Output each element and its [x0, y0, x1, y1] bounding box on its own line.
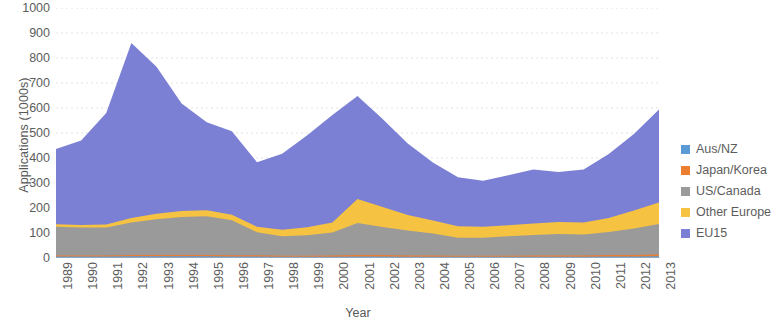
legend-swatch-icon: [681, 187, 690, 196]
x-axis-tick-label: 2010: [590, 262, 603, 308]
legend-swatch-icon: [681, 145, 690, 154]
x-axis-tick-label: 2009: [565, 262, 578, 308]
legend-item-label: EU15: [696, 227, 727, 240]
y-axis-tick-label: 800: [4, 52, 50, 65]
chart-legend: Aus/NZJapan/KoreaUS/CanadaOther EuropeEU…: [681, 139, 782, 244]
x-axis-tick-label: 2013: [665, 262, 678, 308]
x-axis-tick-label: 2012: [640, 262, 653, 308]
x-axis-tick-label: 1998: [288, 262, 301, 308]
y-axis-tick-label: 0: [4, 252, 50, 265]
x-axis-tick-label: 2001: [364, 262, 377, 308]
y-axis-tick-label: 400: [4, 152, 50, 165]
legend-swatch-icon: [681, 166, 690, 175]
legend-item[interactable]: Aus/NZ: [681, 139, 782, 160]
x-axis-tick-label: 2000: [338, 262, 351, 308]
y-axis-tick-label: 100: [4, 227, 50, 240]
legend-item-label: Japan/Korea: [696, 164, 767, 177]
x-axis-tick-label: 1997: [263, 262, 276, 308]
x-axis-tick-label: 1996: [238, 262, 251, 308]
x-axis-tick-label: 2004: [439, 262, 452, 308]
legend-item[interactable]: US/Canada: [681, 181, 782, 202]
y-axis-tick-label: 200: [4, 202, 50, 215]
legend-item[interactable]: EU15: [681, 223, 782, 244]
legend-item-label: Other Europe: [696, 206, 771, 219]
y-axis-tick-label: 500: [4, 127, 50, 140]
x-axis-tick-label: 1991: [112, 262, 125, 308]
x-axis-tick-label: 1995: [213, 262, 226, 308]
area-chart-figure: Applications (1000s) 0100200300400500600…: [0, 0, 782, 324]
y-axis-tick-label: 300: [4, 177, 50, 190]
x-axis-tick-label: 2007: [514, 262, 527, 308]
x-axis-title: Year: [56, 306, 660, 320]
legend-swatch-icon: [681, 229, 690, 238]
x-axis-tick-label: 2005: [464, 262, 477, 308]
legend-swatch-icon: [681, 208, 690, 217]
x-axis-tick-label: 2002: [389, 262, 402, 308]
y-axis-tick-label: 600: [4, 102, 50, 115]
x-axis-tick-label: 2008: [539, 262, 552, 308]
x-axis-tick-label: 2011: [615, 262, 628, 308]
y-axis-tick-label: 900: [4, 27, 50, 40]
x-axis-tick-label: 1990: [87, 262, 100, 308]
x-axis-tick-label: 1993: [163, 262, 176, 308]
x-axis-tick-label: 1992: [137, 262, 150, 308]
y-axis-tick-label: 1000: [4, 2, 50, 15]
x-axis-tick-label: 2003: [414, 262, 427, 308]
x-axis-tick-labels: 1989199019911992199319941995199619971998…: [56, 260, 660, 306]
y-axis-tick-labels: 01002003004005006007008009001000: [0, 0, 50, 324]
x-axis-tick-label: 1994: [188, 262, 201, 308]
legend-item-label: US/Canada: [696, 185, 761, 198]
plot-area: [56, 8, 660, 258]
legend-item[interactable]: Other Europe: [681, 202, 782, 223]
legend-item-label: Aus/NZ: [696, 143, 738, 156]
x-axis-tick-label: 2006: [489, 262, 502, 308]
y-axis-tick-label: 700: [4, 77, 50, 90]
x-axis-tick-label: 1999: [313, 262, 326, 308]
x-axis-tick-label: 1989: [62, 262, 75, 308]
stacked-area-svg: [56, 8, 660, 258]
legend-item[interactable]: Japan/Korea: [681, 160, 782, 181]
